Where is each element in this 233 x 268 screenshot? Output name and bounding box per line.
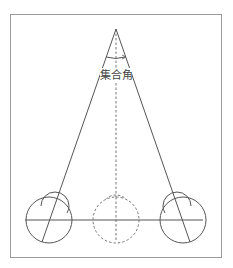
left-eye xyxy=(26,192,72,243)
left-eye-back-circle xyxy=(41,192,69,213)
convergence-angle-diagram: 集合角 xyxy=(0,0,233,268)
angle-label: 集合角 xyxy=(100,68,133,82)
right-eye xyxy=(160,192,206,243)
center-eye xyxy=(93,195,139,243)
right-eye-back-circle xyxy=(163,192,191,213)
